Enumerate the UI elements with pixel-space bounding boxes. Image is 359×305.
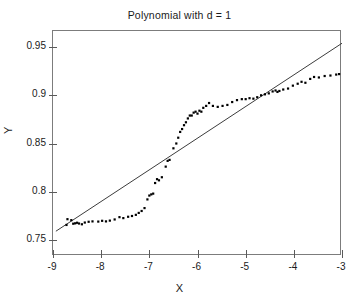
- data-point: [81, 223, 83, 225]
- data-point: [194, 111, 196, 113]
- y-tick-mark: [53, 95, 57, 96]
- x-tick-mark: [149, 254, 150, 258]
- data-point: [72, 223, 74, 225]
- data-point: [264, 93, 266, 95]
- y-tick-label: 0.8: [2, 185, 46, 196]
- data-point: [221, 105, 223, 107]
- data-point: [217, 106, 219, 108]
- data-point: [202, 107, 204, 109]
- data-point: [138, 212, 140, 214]
- data-point: [154, 182, 156, 184]
- data-point: [318, 76, 320, 78]
- data-point: [78, 222, 80, 224]
- x-tick-mark: [53, 254, 54, 258]
- data-point: [158, 179, 160, 181]
- data-point: [200, 111, 202, 113]
- y-tick-label: 0.85: [2, 137, 46, 148]
- data-point: [196, 113, 198, 115]
- data-point: [177, 137, 179, 139]
- data-point: [114, 218, 116, 220]
- x-tick-mark: [342, 254, 343, 258]
- data-point: [236, 99, 238, 101]
- data-point: [297, 83, 299, 85]
- x-tick-label: -3: [321, 261, 359, 272]
- data-point: [226, 104, 228, 106]
- x-tick-label: -7: [128, 261, 168, 272]
- data-point: [191, 114, 193, 116]
- data-point: [335, 73, 337, 75]
- x-tick-mark: [342, 250, 343, 254]
- data-point: [84, 221, 86, 223]
- y-tick-label: 0.75: [2, 233, 46, 244]
- data-point: [156, 178, 158, 180]
- data-point: [198, 110, 200, 112]
- data-point: [165, 166, 167, 168]
- data-point: [97, 220, 99, 222]
- data-point: [131, 215, 133, 217]
- y-tick-mark: [53, 144, 57, 145]
- data-point: [167, 160, 169, 162]
- chart-title: Polynomial with d = 1: [0, 9, 359, 21]
- data-point: [274, 89, 276, 91]
- chart-canvas: [53, 31, 342, 256]
- data-point: [148, 194, 150, 196]
- data-point: [205, 105, 207, 107]
- x-tick-mark: [101, 254, 102, 258]
- data-point: [256, 96, 258, 98]
- data-point: [276, 91, 278, 93]
- data-point: [91, 220, 93, 222]
- x-tick-mark: [198, 250, 199, 254]
- data-point: [304, 82, 306, 84]
- data-point: [300, 81, 302, 83]
- y-tick-mark: [53, 240, 57, 241]
- data-point: [179, 131, 181, 133]
- data-point: [189, 114, 191, 116]
- x-tick-mark: [294, 254, 295, 258]
- data-point: [338, 73, 340, 75]
- data-point: [127, 216, 129, 218]
- data-point: [252, 98, 254, 100]
- figure-container: Polynomial with d = 1 Y X 0.750.80.850.9…: [0, 0, 359, 305]
- data-point: [231, 101, 233, 103]
- data-point: [241, 98, 243, 100]
- data-point: [278, 90, 280, 92]
- x-tick-label: -8: [80, 261, 120, 272]
- fit-line: [56, 43, 342, 231]
- y-axis-label: Y: [2, 127, 14, 134]
- data-point: [70, 219, 72, 221]
- y-tick-mark: [53, 47, 57, 48]
- x-tick-label: -6: [177, 261, 217, 272]
- data-point: [65, 224, 67, 226]
- y-tick-mark: [53, 192, 57, 193]
- x-tick-mark: [246, 254, 247, 258]
- data-point: [309, 78, 311, 80]
- y-tick-label: 0.9: [2, 88, 46, 99]
- plot-area: [52, 30, 341, 255]
- data-point: [143, 207, 145, 209]
- x-tick-mark: [149, 250, 150, 254]
- data-point: [141, 210, 143, 212]
- data-point: [135, 214, 137, 216]
- data-point: [287, 87, 289, 89]
- data-point: [122, 217, 124, 219]
- data-point: [101, 220, 103, 222]
- data-point: [152, 193, 154, 195]
- data-point: [172, 147, 174, 149]
- x-tick-mark: [101, 250, 102, 254]
- data-point: [146, 198, 148, 200]
- data-point: [187, 117, 189, 119]
- data-point: [268, 92, 270, 94]
- data-point: [109, 220, 111, 222]
- data-point: [260, 94, 262, 96]
- data-point: [313, 76, 315, 78]
- x-tick-label: -4: [273, 261, 313, 272]
- x-tick-label: -5: [225, 261, 265, 272]
- x-tick-mark: [198, 254, 199, 258]
- data-point: [324, 75, 326, 77]
- data-point: [181, 128, 183, 130]
- x-tick-mark: [246, 250, 247, 254]
- data-point: [105, 220, 107, 222]
- data-point: [329, 74, 331, 76]
- x-tick-label: -9: [32, 261, 72, 272]
- data-point: [161, 176, 163, 178]
